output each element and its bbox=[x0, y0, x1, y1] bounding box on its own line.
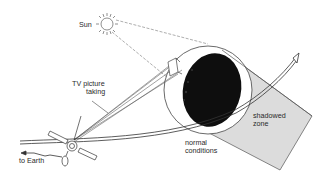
trajectory-arrow-icon bbox=[293, 53, 299, 63]
to-earth-label: to Earth bbox=[19, 156, 44, 165]
tv-label-leader-line bbox=[92, 101, 108, 113]
shadowed-zone-label-line2: zone bbox=[253, 119, 269, 128]
sun-icon bbox=[96, 13, 118, 35]
sun-label: Sun bbox=[79, 20, 92, 29]
tv-picture-label-line2: taking bbox=[86, 87, 105, 96]
normal-conditions-label-line2: conditions bbox=[185, 146, 218, 155]
comet-flyby-diagram: Sun TV picture taking to Earth normal co… bbox=[0, 0, 328, 174]
